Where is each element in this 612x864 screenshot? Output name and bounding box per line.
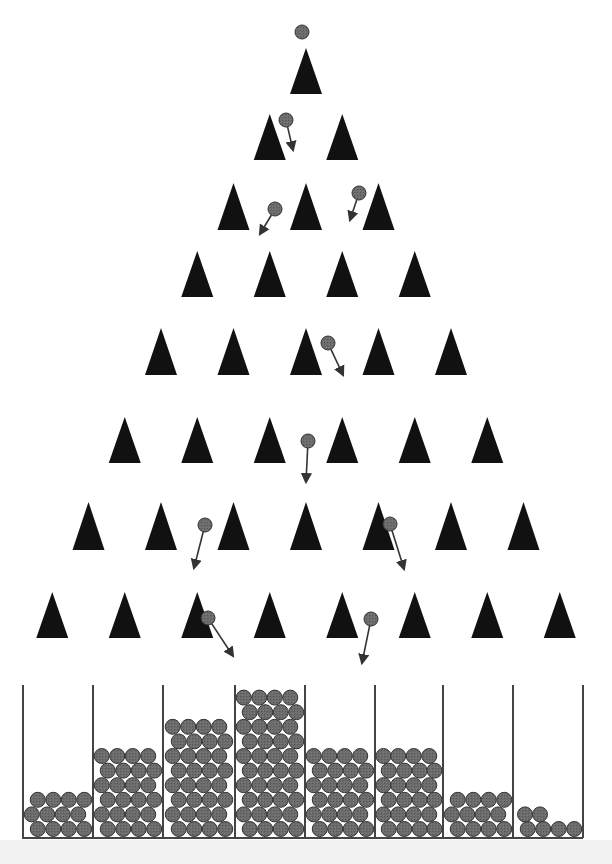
stacked-ball [481, 822, 496, 837]
stacked-ball [181, 778, 196, 793]
stacked-ball [381, 792, 396, 807]
stacked-ball [147, 792, 162, 807]
stacked-ball [141, 807, 156, 822]
stacked-ball [77, 792, 92, 807]
stacked-ball [518, 807, 533, 822]
stacked-ball [322, 749, 337, 764]
stacked-ball [187, 792, 202, 807]
peg-triangle-icon [290, 502, 322, 550]
direction-arrow-icon [212, 624, 233, 656]
stacked-balls [24, 690, 582, 836]
stacked-ball [258, 763, 273, 778]
stacked-ball [147, 822, 162, 837]
stacked-ball [242, 822, 257, 837]
stacked-ball [397, 763, 412, 778]
stacked-ball [567, 822, 582, 837]
stacked-ball [218, 734, 233, 749]
direction-arrow-icon [306, 448, 308, 482]
stacked-ball [196, 807, 211, 822]
stacked-ball [289, 705, 304, 720]
stacked-ball [258, 734, 273, 749]
stacked-ball [236, 690, 251, 705]
stacked-ball [100, 822, 115, 837]
direction-arrow-icon [350, 200, 357, 220]
stacked-ball [165, 749, 180, 764]
stacked-ball [353, 749, 368, 764]
falling-ball [279, 113, 293, 127]
stacked-ball [412, 763, 427, 778]
stacked-ball [252, 690, 267, 705]
falling-ball [198, 518, 212, 532]
peg-triangle-icon [254, 251, 286, 297]
stacked-ball [427, 792, 442, 807]
stacked-ball [252, 807, 267, 822]
stacked-ball [77, 822, 92, 837]
stacked-ball [289, 792, 304, 807]
stacked-ball [242, 763, 257, 778]
stacked-ball [397, 792, 412, 807]
direction-arrow-icon [362, 626, 370, 663]
stacked-ball [359, 822, 374, 837]
peg-triangle-icon [36, 592, 68, 638]
stacked-ball [406, 807, 421, 822]
stacked-ball [267, 807, 282, 822]
falling-ball [321, 336, 335, 350]
stacked-ball [376, 778, 391, 793]
peg-triangle-icon [363, 183, 395, 230]
stacked-ball [242, 792, 257, 807]
stacked-ball [267, 749, 282, 764]
stacked-ball [551, 822, 566, 837]
stacked-ball [397, 822, 412, 837]
stacked-ball [212, 749, 227, 764]
stacked-ball [61, 792, 76, 807]
stacked-ball [312, 822, 327, 837]
stacked-ball [171, 792, 186, 807]
peg-triangle-icon [109, 417, 141, 463]
peg-triangle-icon [290, 48, 322, 94]
falling-ball [201, 611, 215, 625]
stacked-ball [343, 792, 358, 807]
stacked-ball [427, 763, 442, 778]
stacked-ball [520, 822, 535, 837]
stacked-ball [100, 792, 115, 807]
stacked-ball [258, 822, 273, 837]
stacked-ball [273, 734, 288, 749]
stacked-ball [131, 763, 146, 778]
stacked-ball [475, 807, 490, 822]
stacked-ball [141, 778, 156, 793]
stacked-ball [125, 749, 140, 764]
stacked-ball [343, 822, 358, 837]
stacked-ball [46, 792, 61, 807]
stacked-ball [391, 749, 406, 764]
stacked-ball [202, 792, 217, 807]
stacked-ball [466, 792, 481, 807]
falling-ball [364, 612, 378, 626]
peg-triangle-icon [218, 328, 250, 375]
stacked-ball [116, 763, 131, 778]
stacked-ball [343, 763, 358, 778]
stacked-ball [116, 822, 131, 837]
peg-triangle-icon [218, 183, 250, 230]
stacked-ball [212, 778, 227, 793]
stacked-ball [252, 778, 267, 793]
stacked-ball [359, 763, 374, 778]
stacked-ball [202, 734, 217, 749]
peg-triangle-icon [73, 502, 105, 550]
stacked-ball [306, 778, 321, 793]
peg-triangle-icon [471, 417, 503, 463]
stacked-ball [267, 690, 282, 705]
stacked-ball [141, 749, 156, 764]
stacked-ball [116, 792, 131, 807]
peg-triangle-icon [145, 328, 177, 375]
stacked-ball [491, 807, 506, 822]
stacked-ball [466, 822, 481, 837]
falling-ball [301, 434, 315, 448]
peg-triangle-icon [218, 502, 250, 550]
stacked-ball [55, 807, 70, 822]
stacked-ball [412, 792, 427, 807]
stacked-ball [381, 822, 396, 837]
stacked-ball [236, 807, 251, 822]
peg-triangle-icon [435, 502, 467, 550]
stacked-ball [171, 734, 186, 749]
falling-ball [268, 202, 282, 216]
